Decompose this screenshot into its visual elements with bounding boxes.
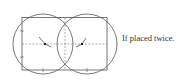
caption-text: If placed twice. — [122, 33, 175, 43]
tick-marks — [20, 31, 87, 72]
right-arrow-marker — [76, 38, 86, 47]
dashed-centerlines — [22, 18, 107, 70]
diagram-figure — [0, 0, 130, 80]
left-arrow-marker — [39, 37, 51, 47]
